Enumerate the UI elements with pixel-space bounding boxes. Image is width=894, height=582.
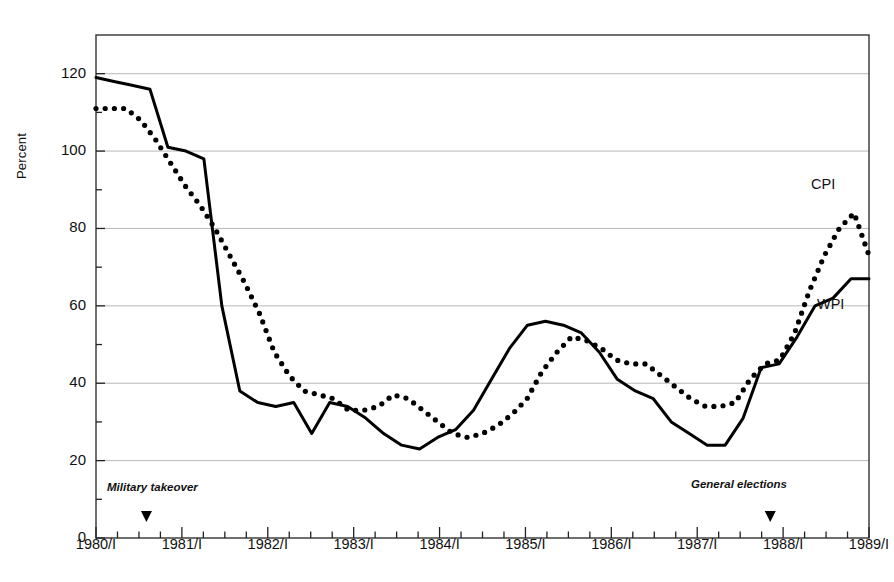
annotation-military-takeover-label: Military takeover (107, 481, 198, 493)
y-axis-tick-label: 40 (42, 373, 86, 390)
y-axis-tick-label: 120 (42, 64, 86, 81)
x-axis-tick-label: 1987/I (657, 536, 737, 552)
series-label-cpi: CPI (811, 176, 835, 192)
x-axis-tick-label: 1980/I (56, 536, 136, 552)
plot-frame (96, 35, 869, 538)
y-axis-title: Percent (14, 76, 29, 236)
chart-figure: Percent 020406080100120 1980/I1981/I1982… (0, 0, 894, 582)
x-axis-tick-label: 1988/I (743, 536, 823, 552)
y-axis-tick-label: 80 (42, 218, 86, 235)
x-axis-tick-label: 1983/I (314, 536, 394, 552)
series-line-wpi (96, 78, 869, 449)
series-label-wpi: WPI (817, 296, 844, 312)
y-axis-tick-label: 100 (42, 141, 86, 158)
x-axis-tick-label: 1985/I (485, 536, 565, 552)
annotation-general-elections-label: General elections (691, 478, 787, 490)
x-axis-tick-label: 1981/I (142, 536, 222, 552)
x-axis-tick-label: 1982/I (228, 536, 308, 552)
y-axis-tick-label: 60 (42, 296, 86, 313)
y-axis-tick-label: 20 (42, 451, 86, 468)
annotation-marker-general-elections (765, 511, 776, 522)
x-axis-tick-label: 1989/I (829, 536, 894, 552)
chart-canvas (0, 0, 894, 582)
x-axis-tick-label: 1986/I (571, 536, 651, 552)
annotation-marker-military-takeover (141, 511, 152, 522)
x-axis-tick-label: 1984/I (400, 536, 480, 552)
